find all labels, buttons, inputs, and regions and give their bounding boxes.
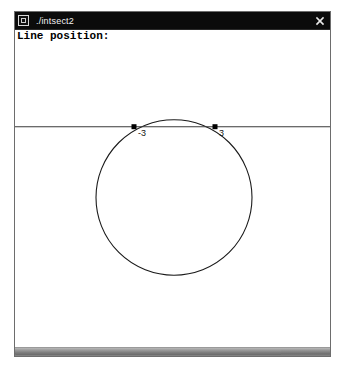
left-intersection-marker xyxy=(132,124,137,129)
horizontal-scrollbar[interactable] xyxy=(15,347,330,356)
close-icon xyxy=(317,18,323,24)
window-menu-icon[interactable] xyxy=(18,15,29,26)
close-button[interactable] xyxy=(312,13,328,29)
client-area: -33 Line position: xyxy=(15,30,330,356)
window-title: ./intsect2 xyxy=(36,16,312,26)
desktop-backdrop: ./intsect2 -33 Line position: xyxy=(0,0,345,371)
title-bar[interactable]: ./intsect2 xyxy=(15,12,330,30)
right-intersection-label: 3 xyxy=(219,128,224,138)
geometry-figure: -33 xyxy=(15,30,330,356)
circle xyxy=(96,120,252,276)
line-position-label: Line position: xyxy=(17,30,109,43)
drawing-canvas[interactable]: -33 xyxy=(15,30,330,356)
left-intersection-label: -3 xyxy=(138,128,146,138)
horizontal-scrollbar-thumb[interactable] xyxy=(16,349,281,355)
right-intersection-marker xyxy=(213,124,218,129)
application-window: ./intsect2 -33 Line position: xyxy=(14,11,331,357)
